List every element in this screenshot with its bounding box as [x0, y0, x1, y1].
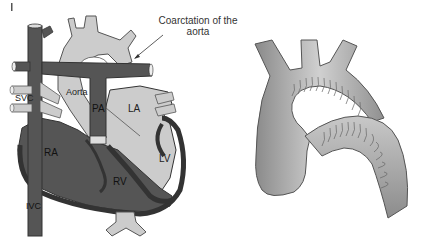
- label-ra: RA: [44, 148, 58, 158]
- label-svc: SVC: [15, 94, 34, 103]
- callout-arrow-line: [135, 35, 163, 58]
- callout-coarctation: Coarctation of the aorta: [150, 15, 246, 37]
- label-ivc: IVC: [26, 202, 41, 211]
- callout-line-2: aorta: [150, 26, 246, 37]
- aortic-arch-illustration: [255, 40, 408, 218]
- label-aorta: Aorta: [66, 88, 88, 97]
- label-pa: PA: [92, 104, 105, 114]
- crop-fragment: [11, 3, 13, 11]
- heart-diagram: [0, 0, 425, 248]
- label-lv: LV: [159, 154, 171, 164]
- label-rv: RV: [113, 177, 127, 187]
- label-la: LA: [128, 104, 140, 114]
- callout-line-1: Coarctation of the: [150, 15, 246, 26]
- figure: SVC Aorta PA LA RA LV RV IVC Coarctation…: [0, 0, 425, 248]
